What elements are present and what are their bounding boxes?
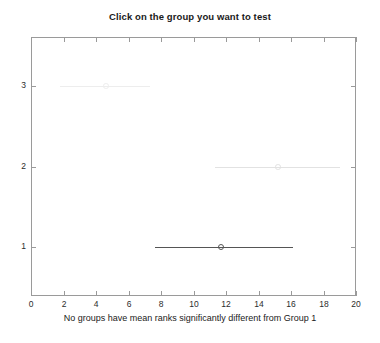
- x-axis-tick: [31, 291, 32, 296]
- mean-rank-marker[interactable]: [103, 83, 109, 89]
- x-axis-tick-label: 6: [116, 299, 142, 309]
- multiple-comparison-figure: Click on the group you want to test 0246…: [0, 0, 380, 343]
- mean-rank-marker[interactable]: [275, 164, 281, 170]
- y-axis-tick: [31, 167, 36, 168]
- x-axis-tick-label: 8: [148, 299, 174, 309]
- x-axis-tick-label: 4: [83, 299, 109, 309]
- y-axis-tick-right: [351, 247, 356, 248]
- y-axis-tick: [31, 86, 36, 87]
- x-axis-tick-top: [291, 37, 292, 42]
- x-axis-label: No groups have mean ranks significantly …: [0, 313, 380, 323]
- x-axis-tick-label: 16: [278, 299, 304, 309]
- x-axis-tick: [194, 291, 195, 296]
- x-axis-tick-top: [64, 37, 65, 42]
- y-axis-tick-label: 1: [6, 241, 26, 251]
- x-axis-tick: [96, 291, 97, 296]
- x-axis-tick-label: 20: [343, 299, 369, 309]
- x-axis-tick: [64, 291, 65, 296]
- x-axis-tick-label: 2: [51, 299, 77, 309]
- x-axis-tick-top: [194, 37, 195, 42]
- x-axis-tick-top: [31, 37, 32, 42]
- x-axis-tick-label: 14: [246, 299, 272, 309]
- x-axis-tick: [291, 291, 292, 296]
- x-axis-tick-label: 18: [311, 299, 337, 309]
- x-axis-tick: [324, 291, 325, 296]
- x-axis-tick-top: [96, 37, 97, 42]
- x-axis-tick: [259, 291, 260, 296]
- x-axis-tick-top: [226, 37, 227, 42]
- chart-title: Click on the group you want to test: [0, 11, 380, 22]
- x-axis-tick: [129, 291, 130, 296]
- y-axis-tick-right: [351, 167, 356, 168]
- x-axis-tick-top: [161, 37, 162, 42]
- x-axis-tick-top: [259, 37, 260, 42]
- x-axis-tick: [226, 291, 227, 296]
- x-axis-tick-top: [356, 37, 357, 42]
- y-axis-tick-right: [351, 86, 356, 87]
- x-axis-tick-label: 12: [213, 299, 239, 309]
- y-axis-tick-label: 2: [6, 161, 26, 171]
- x-axis-tick: [161, 291, 162, 296]
- x-axis-tick: [356, 291, 357, 296]
- x-axis-tick-label: 10: [181, 299, 207, 309]
- y-axis-tick-label: 3: [6, 80, 26, 90]
- x-axis-tick-top: [129, 37, 130, 42]
- x-axis-tick-label: 0: [18, 299, 44, 309]
- x-axis-tick-top: [324, 37, 325, 42]
- y-axis-tick: [31, 247, 36, 248]
